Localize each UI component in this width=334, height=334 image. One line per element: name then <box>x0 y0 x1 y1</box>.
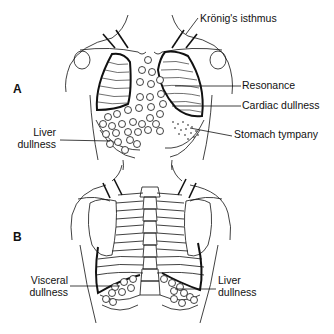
label-stomach-tympany: Stomach tympany <box>234 129 318 141</box>
label-liver-dullness-b-line2: dullness <box>218 287 257 299</box>
label-visceral-dullness: Visceral dullness <box>20 275 68 298</box>
label-resonance: Resonance <box>242 80 295 92</box>
label-liver-dullness-a-line1: Liver <box>14 127 56 139</box>
label-liver-dullness-a: Liver dullness <box>14 127 56 150</box>
label-visceral-dullness-line1: Visceral <box>20 275 68 287</box>
label-cardiac-dullness: Cardiac dullness <box>242 100 320 112</box>
label-liver-dullness-b-line1: Liver <box>218 275 257 287</box>
label-liver-dullness-b: Liver dullness <box>218 275 257 298</box>
label-liver-dullness-a-line2: dullness <box>14 139 56 151</box>
label-visceral-dullness-line2: dullness <box>20 287 68 299</box>
posterior-chest-illustration <box>0 165 334 334</box>
panel-a-letter: A <box>13 82 22 96</box>
label-kronigs-isthmus: Krönig's isthmus <box>200 13 277 25</box>
panel-b-letter: B <box>13 230 22 244</box>
panel-b-posterior: B Visceral dullness Liver dullness <box>0 165 334 334</box>
panel-a-anterior: A Krönig's isthmus Resonance Cardiac dul… <box>0 0 334 170</box>
